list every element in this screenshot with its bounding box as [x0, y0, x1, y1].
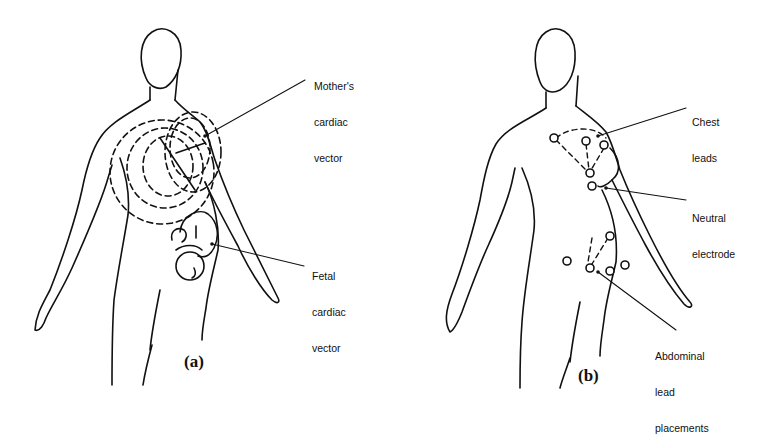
neutral-electrode-marker	[588, 182, 596, 190]
abdominal-leader-line	[598, 272, 676, 330]
chest-electrode	[600, 141, 608, 149]
mother-cardiac-vector-arrow	[176, 143, 205, 153]
label-line: Mother's	[314, 80, 354, 92]
label-line: leads	[692, 152, 719, 164]
fetal-vector-leader-line	[212, 244, 304, 266]
label-line: Chest	[692, 116, 719, 128]
panel-a-label: (a)	[184, 352, 204, 372]
abdominal-lead-placements-label: Abdominal lead placements	[655, 326, 709, 438]
abdominal-electrode	[621, 261, 629, 269]
chest-electrode	[586, 169, 594, 177]
mother-cardiac-vector-axis	[160, 138, 195, 190]
label-line: vector	[312, 342, 346, 354]
label-line: lead	[655, 386, 709, 398]
chest-leads-label: Chest leads	[692, 92, 719, 176]
abdominal-electrode	[606, 267, 614, 275]
panel-b-label: (b)	[578, 366, 599, 386]
chest-electrode	[582, 137, 590, 145]
label-line: electrode	[692, 248, 735, 260]
mother-cardiac-vector-label: Mother's cardiac vector	[314, 56, 354, 176]
chest-leads-leader-line	[598, 108, 686, 136]
chest-electrode	[550, 134, 558, 142]
label-line: Neutral	[692, 212, 735, 224]
label-line: vector	[314, 152, 354, 164]
mother-vector-leader-line	[205, 80, 305, 136]
neutral-electrode-leader-line	[606, 188, 686, 200]
abdominal-electrode	[586, 264, 594, 272]
label-line: placements	[655, 422, 709, 434]
fetal-cardiac-vector-label: Fetal cardiac vector	[312, 246, 346, 366]
abdominal-electrode	[606, 232, 614, 240]
label-line: cardiac	[314, 116, 354, 128]
label-line: Abdominal	[655, 350, 709, 362]
label-line: Fetal	[312, 270, 346, 282]
neutral-electrode-label: Neutral electrode	[692, 188, 735, 272]
abdominal-electrode	[563, 257, 571, 265]
label-line: cardiac	[312, 306, 346, 318]
chest-lead-dashed-lines	[556, 129, 608, 264]
